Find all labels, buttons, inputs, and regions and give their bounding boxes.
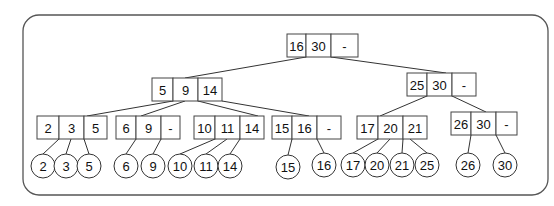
leaf-node: 11 [194,154,218,178]
tree-edge [402,139,403,153]
node-key-label: 30 [311,39,325,54]
leaf-label: 10 [173,159,187,174]
node-key-label: 17 [360,121,374,136]
leaf-label: 3 [62,159,69,174]
leaf-label: 11 [199,159,213,174]
tree-node: 172021 [357,116,427,139]
tree-node: 1630- [287,34,358,57]
node-key-label: 16 [297,121,311,136]
tree-edge [198,101,258,116]
node-key-label: 5 [159,83,166,98]
node-key-label: 21 [408,121,422,136]
node-key-label: 26 [454,117,468,132]
tree-node: 101114 [194,116,264,139]
leaf-node: 5 [77,154,101,178]
node-key-label: 30 [432,78,446,93]
leaf-label: 15 [281,160,295,175]
leaf-node: 6 [114,154,138,178]
leaf-label: 2 [39,159,46,174]
tree-diagram: 1630-59142530-23569-1011141516-172021263… [0,0,554,206]
tree-leaves: 235691011141516172021252630 [31,153,517,179]
node-key-label: 9 [182,83,189,98]
node-key-label: - [462,78,466,93]
tree-edge [222,101,309,116]
leaf-node: 2 [31,154,55,178]
node-key-label: 5 [92,121,99,136]
node-key-label: - [327,121,331,136]
tree-node: 69- [116,116,180,139]
node-key-label: - [504,117,508,132]
tree-edge [84,139,89,154]
tree-edges [43,57,505,155]
node-key-label: 6 [122,121,129,136]
node-key-label: 30 [476,117,490,132]
leaf-node: 3 [54,154,78,178]
leaf-label: 16 [317,158,331,173]
tree-node: 2530- [407,73,476,96]
leaf-node: 30 [493,153,517,177]
node-key-label: 11 [221,121,235,136]
node-key-label: 14 [203,83,217,98]
tree-edge [468,135,471,153]
node-key-label: 15 [275,121,289,136]
leaf-label: 17 [346,158,360,173]
node-key-label: 14 [245,121,259,136]
leaf-node: 25 [415,153,439,177]
leaf-node: 15 [276,155,300,179]
tree-node: 235 [37,116,107,139]
tree-edge [317,139,324,153]
tree-edge [153,139,161,154]
leaf-label: 30 [498,158,512,173]
tree-edge [185,57,306,78]
tree-nodes: 1630-59142530-23569-1011141516-172021263… [37,34,517,139]
leaf-label: 21 [395,158,409,173]
tree-edge [87,101,173,116]
tree-node: 5914 [152,78,222,101]
tree-node: 2630- [451,112,517,135]
tree-edge [288,139,292,155]
node-key-label: 2 [44,121,51,136]
node-key-label: - [168,121,172,136]
leaf-label: 26 [461,158,475,173]
leaf-node: 26 [456,153,480,177]
leaf-label: 5 [85,159,92,174]
leaf-node: 17 [341,153,365,177]
tree-edge [66,139,71,154]
leaf-label: 14 [223,159,237,174]
tree-edge [126,139,136,154]
node-key-label: 25 [410,78,424,93]
tree-edge [230,139,240,154]
leaf-label: 25 [420,158,434,173]
tree-edge [496,135,505,153]
leaf-node: 9 [141,154,165,178]
node-key-label: 3 [68,121,75,136]
leaf-label: 20 [370,158,384,173]
node-key-label: 9 [145,121,152,136]
tree-edge [380,96,427,116]
leaf-node: 10 [168,154,192,178]
node-key-label: 16 [289,39,303,54]
tree-edge [43,139,59,154]
tree-edge [331,57,446,73]
tree-edge [452,96,486,112]
leaf-node: 20 [365,153,389,177]
leaf-label: 6 [122,159,129,174]
node-key-label: 10 [197,121,211,136]
leaf-node: 21 [390,153,414,177]
tree-node: 1516- [272,116,341,139]
tree-edge [353,139,378,153]
node-key-label: 20 [383,121,397,136]
leaf-node: 16 [312,153,336,177]
node-key-label: - [342,39,346,54]
leaf-node: 14 [218,154,242,178]
leaf-label: 9 [149,159,156,174]
tree-edge [377,139,390,153]
tree-edge [410,139,427,153]
